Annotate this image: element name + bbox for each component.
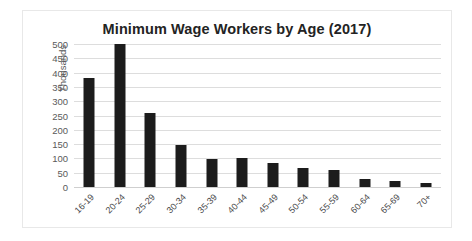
- bar-group: 40-44: [227, 44, 258, 187]
- bar-group: 60-64: [349, 44, 380, 187]
- bar-series: 16-1920-2425-2930-3435-3940-4445-4950-54…: [74, 44, 441, 187]
- bar-group: 16-19: [74, 44, 105, 187]
- y-axis-tick-label: 50: [22, 167, 68, 178]
- bar: [359, 179, 370, 187]
- plot-area: 050100150200250300350400450500 16-1920-2…: [74, 44, 441, 187]
- y-axis-tick-label: 150: [22, 139, 68, 150]
- bar-group: 50-54: [288, 44, 319, 187]
- x-axis-tick-label: 30-34: [165, 192, 188, 215]
- axis-baseline: [74, 187, 441, 188]
- x-axis-tick-label: 65-69: [379, 192, 402, 215]
- bar: [114, 44, 125, 187]
- bar: [176, 145, 187, 187]
- x-axis-tick-label: 55-59: [318, 192, 341, 215]
- bar-group: 70+: [410, 44, 441, 187]
- bar-group: 45-49: [258, 44, 289, 187]
- y-axis-tick-label: 400: [22, 67, 68, 78]
- bar-group: 35-39: [196, 44, 227, 187]
- x-axis-tick-label: 40-44: [226, 192, 249, 215]
- chart-card: Minimum Wage Workers by Age (2017) Thous…: [22, 10, 452, 228]
- y-axis-tick-label: 450: [22, 53, 68, 64]
- bar-group: 55-59: [319, 44, 350, 187]
- y-axis-tick-label: 250: [22, 110, 68, 121]
- bar-group: 25-29: [135, 44, 166, 187]
- x-axis-tick-label: 60-64: [348, 192, 371, 215]
- x-axis-tick-label: 35-39: [195, 192, 218, 215]
- bar-group: 65-69: [380, 44, 411, 187]
- y-axis-tick-label: 500: [22, 39, 68, 50]
- x-axis-tick-label: 16-19: [73, 192, 96, 215]
- x-axis-tick-label: 45-49: [256, 192, 279, 215]
- bar: [84, 78, 95, 187]
- y-axis-tick-label: 100: [22, 153, 68, 164]
- bar: [420, 183, 431, 187]
- bar-group: 20-24: [105, 44, 136, 187]
- chart-title: Minimum Wage Workers by Age (2017): [23, 21, 451, 37]
- bar: [298, 168, 309, 187]
- x-axis-tick-label: 50-54: [287, 192, 310, 215]
- bar: [328, 170, 339, 187]
- x-axis-tick-label: 70+: [415, 192, 433, 210]
- bar: [237, 158, 248, 187]
- bar: [390, 181, 401, 187]
- bar-group: 30-34: [166, 44, 197, 187]
- bar: [206, 159, 217, 187]
- x-axis-tick-label: 20-24: [104, 192, 127, 215]
- y-axis-tick-label: 0: [22, 182, 68, 193]
- x-axis-tick-label: 25-29: [134, 192, 157, 215]
- y-axis-tick-label: 200: [22, 124, 68, 135]
- bar: [145, 113, 156, 187]
- y-axis-tick-label: 350: [22, 81, 68, 92]
- y-axis-tick-label: 300: [22, 96, 68, 107]
- bar: [267, 163, 278, 187]
